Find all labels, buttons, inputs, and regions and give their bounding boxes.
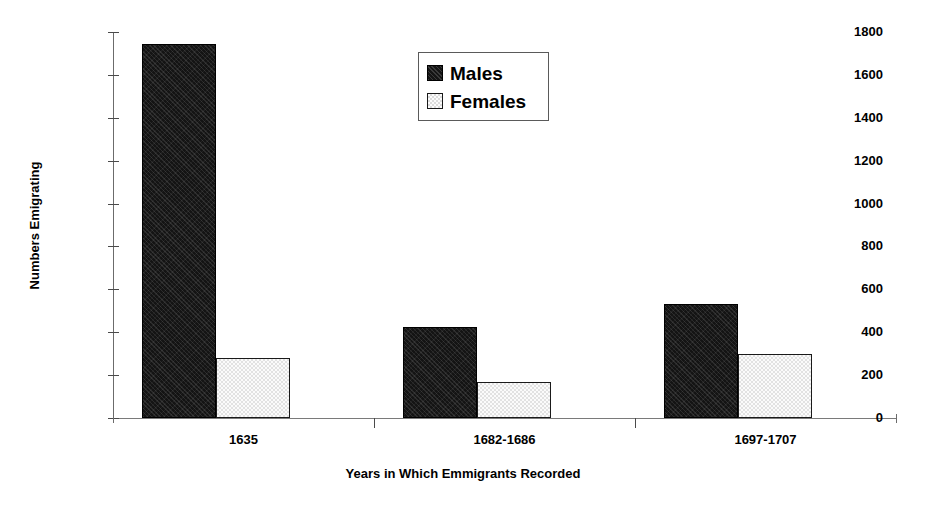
y-axis-tick bbox=[108, 246, 119, 247]
bar-males-1635 bbox=[142, 44, 216, 418]
y-axis-tick bbox=[108, 161, 119, 162]
bar-chart: Numbers Emigrating 020040060080010001200… bbox=[0, 0, 926, 507]
legend-item-males: Males bbox=[427, 59, 548, 87]
x-axis-line bbox=[113, 418, 896, 419]
y-axis-tick bbox=[108, 332, 119, 333]
legend-item-females: Females bbox=[427, 87, 548, 115]
y-axis-tick-label: 800 bbox=[823, 239, 883, 252]
x-axis-category-label: 1682-1686 bbox=[374, 432, 635, 447]
y-axis-tick bbox=[108, 289, 119, 290]
legend: Males Females bbox=[418, 52, 549, 121]
y-axis-tick bbox=[108, 204, 119, 205]
y-axis-tick-label: 1000 bbox=[823, 197, 883, 210]
legend-label-females: Females bbox=[450, 92, 526, 111]
y-axis-tick bbox=[108, 75, 119, 76]
y-axis-line bbox=[113, 32, 114, 418]
y-axis-tick-label: 400 bbox=[823, 325, 883, 338]
legend-swatch-males-icon bbox=[427, 65, 443, 81]
x-axis-category-label: 1697-1707 bbox=[635, 432, 896, 447]
y-axis-tick-label: 1400 bbox=[823, 111, 883, 124]
bar-females-1697-1707 bbox=[738, 354, 812, 418]
y-axis-tick-label: 600 bbox=[823, 282, 883, 295]
y-axis-tick-label: 1200 bbox=[823, 154, 883, 167]
x-axis-tick bbox=[635, 418, 636, 428]
x-axis-tick bbox=[374, 418, 375, 428]
x-axis-end-tick bbox=[896, 414, 897, 423]
bar-females-1635 bbox=[216, 358, 290, 418]
y-axis-tick bbox=[108, 375, 119, 376]
bar-males-1682-1686 bbox=[403, 327, 477, 418]
x-axis-end-tick bbox=[113, 414, 114, 423]
y-axis-tick bbox=[108, 118, 119, 119]
legend-label-males: Males bbox=[450, 64, 503, 83]
bar-males-1697-1707 bbox=[664, 304, 738, 418]
y-axis-tick-label: 200 bbox=[823, 368, 883, 381]
x-axis-title: Years in Which Emmigrants Recorded bbox=[0, 466, 926, 481]
y-axis-tick-label: 0 bbox=[823, 411, 883, 424]
y-axis-tick-label: 1600 bbox=[823, 68, 883, 81]
y-axis-tick bbox=[108, 32, 119, 33]
legend-swatch-females-icon bbox=[427, 93, 443, 109]
x-axis-category-label: 1635 bbox=[113, 432, 374, 447]
y-axis-title: Numbers Emigrating bbox=[27, 106, 42, 346]
y-axis-tick-label: 1800 bbox=[823, 25, 883, 38]
bar-females-1682-1686 bbox=[477, 382, 551, 418]
